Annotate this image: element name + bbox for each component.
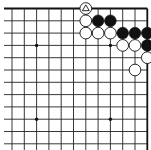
black-stone-icon	[129, 27, 141, 39]
black-stone-icon	[141, 40, 151, 52]
white-stone[interactable]	[80, 27, 92, 39]
go-board[interactable]	[0, 0, 151, 150]
white-stone-icon	[129, 64, 141, 76]
black-stone-icon	[117, 27, 129, 39]
star-point	[109, 44, 112, 47]
white-stone-icon	[80, 27, 92, 39]
black-stone[interactable]	[92, 15, 104, 27]
white-stone-icon	[80, 15, 92, 27]
black-stone[interactable]	[141, 27, 151, 39]
white-stone-icon	[92, 27, 104, 39]
black-stone[interactable]	[129, 27, 141, 39]
stones	[80, 3, 151, 76]
black-stone-icon	[105, 15, 117, 27]
star-point	[35, 44, 38, 47]
star-point	[109, 118, 112, 121]
white-stone[interactable]	[92, 27, 104, 39]
white-stone[interactable]	[141, 52, 151, 64]
white-stone-icon	[129, 40, 141, 52]
white-stone[interactable]	[129, 64, 141, 76]
black-stone-icon	[92, 15, 104, 27]
white-stone[interactable]	[117, 40, 129, 52]
white-stone[interactable]	[80, 15, 92, 27]
star-point	[35, 118, 38, 121]
white-stone-icon	[105, 27, 117, 39]
white-stone[interactable]	[105, 27, 117, 39]
black-stone-icon	[141, 27, 151, 39]
white-stone-icon	[117, 40, 129, 52]
white-stone[interactable]	[129, 40, 141, 52]
black-stone[interactable]	[117, 27, 129, 39]
white-stone[interactable]	[80, 3, 92, 15]
black-stone[interactable]	[141, 40, 151, 52]
white-stone-icon	[141, 52, 151, 64]
black-stone[interactable]	[105, 15, 117, 27]
